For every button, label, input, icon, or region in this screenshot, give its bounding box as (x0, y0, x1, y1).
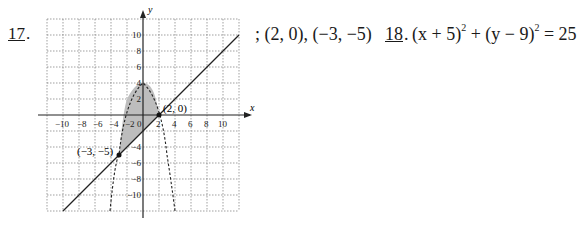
graph-problem-17: x y −10−8−6 −4−20 246 810 1086 42−4 −6−8… (0, 0, 270, 226)
svg-text:−10: −10 (127, 190, 142, 200)
line-graph (63, 35, 239, 211)
problem-17-answer: ; (2, 0), (−3, −5) (255, 24, 372, 45)
eq-plus: + (466, 24, 485, 44)
svg-text:10: 10 (218, 119, 228, 129)
svg-text:−4: −4 (131, 142, 141, 152)
svg-text:−8: −8 (77, 119, 87, 129)
point-label-neg3-neg5: (−3, −5) (77, 145, 114, 158)
eq-term-1: (x + 5) (412, 24, 461, 44)
point-2-0 (157, 113, 162, 118)
svg-text:8: 8 (204, 119, 209, 129)
period: . (404, 24, 409, 45)
point-neg3-neg5 (117, 153, 122, 158)
point-label-2-0: (2, 0) (163, 102, 187, 115)
svg-text:4: 4 (172, 119, 177, 129)
svg-text:−10: −10 (55, 119, 70, 129)
svg-text:−4: −4 (109, 119, 119, 129)
y-axis-arrow-icon (140, 10, 146, 18)
svg-text:2: 2 (137, 94, 142, 104)
eq-term-2: (y − 9) (485, 24, 534, 44)
svg-text:0: 0 (137, 119, 142, 129)
svg-text:4: 4 (137, 78, 142, 88)
svg-text:−6: −6 (93, 119, 103, 129)
svg-text:2: 2 (156, 119, 161, 129)
x-axis-label: x (249, 102, 255, 113)
problem-18-number: 18 (385, 24, 403, 45)
svg-text:6: 6 (188, 119, 193, 129)
svg-text:6: 6 (137, 62, 142, 72)
problem-18-equation: (x + 5)2 + (y − 9)2 = 25 (412, 22, 577, 45)
svg-text:−2: −2 (125, 119, 135, 129)
y-axis-label: y (147, 4, 153, 15)
svg-text:−8: −8 (131, 174, 141, 184)
x-tick-labels: −10−8−6 −4−20 246 810 (55, 119, 228, 129)
eq-rhs: = 25 (539, 24, 576, 44)
svg-text:8: 8 (137, 46, 142, 56)
svg-text:10: 10 (132, 30, 142, 40)
svg-text:−6: −6 (131, 158, 141, 168)
